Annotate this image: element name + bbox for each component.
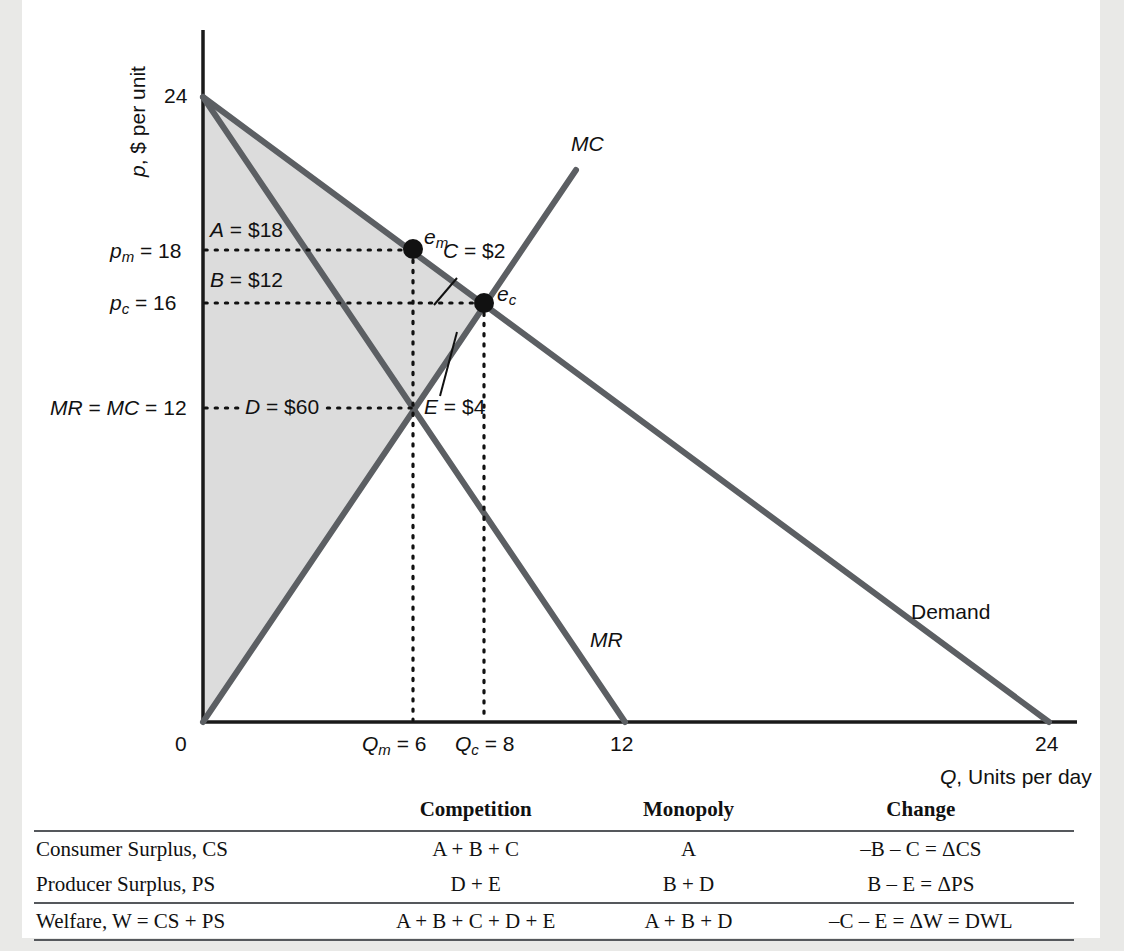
y-tick-24: 24 [164, 85, 187, 106]
row-label-producer-surplus: Producer Surplus, PS [34, 867, 342, 903]
row-label-consumer-surplus: Consumer Surplus, CS [34, 831, 342, 867]
x-tick-24: 24 [1035, 733, 1058, 754]
cell-ps-change: B – E = ΔPS [768, 867, 1074, 903]
price-label-mr-mc: MR = MC = 12 [50, 397, 187, 418]
table-row: Welfare, W = CS + PS A + B + C + D + E A… [34, 903, 1074, 940]
table-header-row: Competition Monopoly Change [34, 795, 1074, 831]
table-header-monopoly: Monopoly [609, 795, 767, 831]
x-tick-qm: Qm = 6 [362, 733, 426, 757]
area-label-e: E = $4 [424, 396, 485, 417]
cell-w-change: –C – E = ΔW = DWL [768, 903, 1074, 940]
x-tick-12: 12 [610, 733, 633, 754]
cell-w-monopoly: A + B + D [609, 903, 767, 940]
table-header-blank [34, 795, 342, 831]
cell-ps-competition: D + E [342, 867, 609, 903]
table-row: Consumer Surplus, CS A + B + C A –B – C … [34, 831, 1074, 867]
cell-cs-change: –B – C = ΔCS [768, 831, 1074, 867]
curve-label-mc: MC [571, 133, 604, 154]
area-label-a: A = $18 [210, 219, 283, 240]
area-label-d: D = $60 [242, 396, 322, 417]
y-axis-title: p, $ per unit [127, 66, 148, 177]
price-label-pc: pc = 16 [110, 292, 176, 316]
cell-cs-competition: A + B + C [342, 831, 609, 867]
comparison-table: Competition Monopoly Change Consumer Sur… [34, 795, 1074, 941]
curve-label-mr: MR [590, 629, 623, 650]
point-label-ec: ec [497, 283, 516, 307]
cell-cs-monopoly: A [609, 831, 767, 867]
x-tick-0: 0 [175, 733, 187, 754]
table-row: Producer Surplus, PS D + E B + D B – E =… [34, 867, 1074, 903]
curve-label-demand: Demand [911, 601, 990, 622]
table-header-competition: Competition [342, 795, 609, 831]
x-axis-title: Q, Units per day [940, 766, 1092, 787]
row-label-welfare: Welfare, W = CS + PS [34, 903, 342, 940]
table-header-change: Change [768, 795, 1074, 831]
point-ec [474, 293, 494, 313]
x-tick-qc: Qc = 8 [455, 733, 514, 757]
comparison-table-wrap: Competition Monopoly Change Consumer Sur… [34, 795, 1074, 941]
area-label-c: C = $2 [443, 240, 505, 261]
area-label-b: B = $12 [210, 269, 283, 290]
cell-ps-monopoly: B + D [609, 867, 767, 903]
cell-w-competition: A + B + C + D + E [342, 903, 609, 940]
price-label-pm: pm = 18 [110, 240, 181, 264]
figure-page: p, $ per unit 24 pm = 18 pc = 16 MR = MC… [0, 0, 1124, 951]
point-label-em: em [424, 226, 448, 250]
point-em [403, 239, 423, 259]
